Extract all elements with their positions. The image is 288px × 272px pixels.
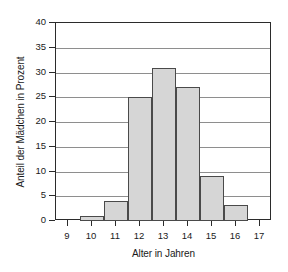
y-axis-tick-label: 25 xyxy=(0,91,46,101)
x-axis-tick-label: 15 xyxy=(199,231,223,241)
bar-chart: Anteil der Mädchen in Prozent Alter in J… xyxy=(0,0,288,272)
y-axis-tick xyxy=(49,220,55,221)
bar-age-13 xyxy=(152,68,176,221)
x-axis-tick-label: 14 xyxy=(175,231,199,241)
x-axis-tick-label: 12 xyxy=(127,231,151,241)
bar-age-12 xyxy=(128,97,152,221)
plot-area xyxy=(55,22,271,220)
bar-age-14 xyxy=(176,87,200,221)
y-axis-tick-label: 35 xyxy=(0,42,46,52)
y-axis-tick-label: 5 xyxy=(0,190,46,200)
x-axis-tick-label: 13 xyxy=(151,231,175,241)
y-axis-tick-label: 10 xyxy=(0,166,46,176)
x-axis-tick-label: 17 xyxy=(247,231,271,241)
y-axis-tick-label: 0 xyxy=(0,215,46,225)
x-axis-tick xyxy=(67,220,68,226)
x-axis-title: Alter in Jahren xyxy=(55,248,272,259)
x-axis-tick-label: 16 xyxy=(223,231,247,241)
gridline-y-35 xyxy=(56,48,270,49)
x-axis-tick xyxy=(259,220,260,226)
y-axis-tick-label: 30 xyxy=(0,67,46,77)
bar-age-10 xyxy=(80,216,104,221)
y-axis-tick-label: 40 xyxy=(0,17,46,27)
bar-age-15 xyxy=(200,176,224,221)
y-axis-tick-label: 15 xyxy=(0,141,46,151)
y-axis-tick-label: 20 xyxy=(0,116,46,126)
x-axis-tick-label: 10 xyxy=(79,231,103,241)
bar-age-16 xyxy=(224,205,248,221)
x-axis-tick-label: 9 xyxy=(55,231,79,241)
bar-age-11 xyxy=(104,201,128,221)
x-axis-tick-label: 11 xyxy=(103,231,127,241)
